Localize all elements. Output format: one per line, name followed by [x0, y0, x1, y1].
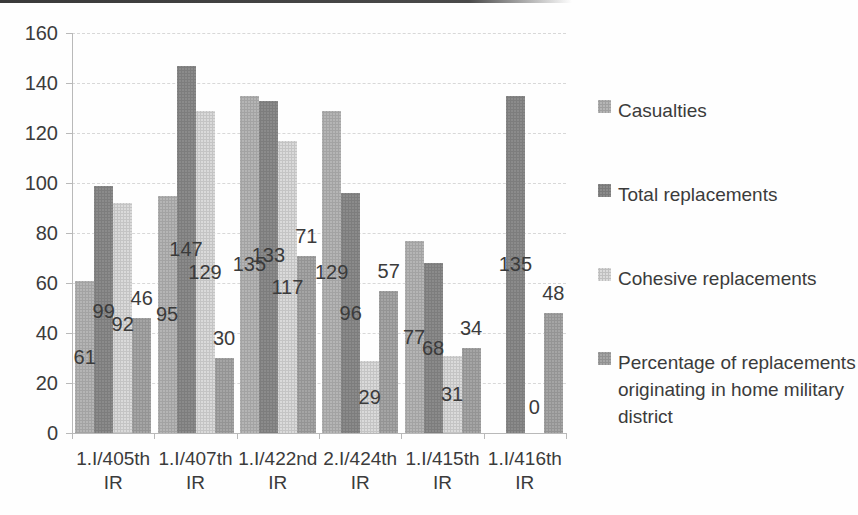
legend-label: Casualties: [618, 97, 707, 124]
data-label: 31: [441, 384, 463, 404]
gridline-160: [72, 33, 566, 34]
legend-label-line: district: [618, 403, 856, 430]
y-axis-line: [72, 33, 73, 433]
category-label-line: IR: [488, 471, 562, 495]
legend-marker-icon: [598, 268, 611, 281]
legend-marker-icon: [598, 352, 611, 365]
gridline-80: [72, 233, 566, 234]
y-axis-tick-label: 160: [14, 23, 58, 43]
y-axis-tick-label: 120: [14, 123, 58, 143]
y-axis-tick-label: 20: [14, 373, 58, 393]
x-axis-tick: [154, 433, 155, 439]
category-label-line: IR: [238, 471, 317, 495]
category-label-line: IR: [323, 471, 397, 495]
category-label: 1.I/405thIR: [76, 447, 150, 495]
category-label: 1.I/415thIR: [406, 447, 480, 495]
y-axis-tick-label: 40: [14, 323, 58, 343]
legend-label: Total replacements: [618, 181, 777, 208]
gridline-120: [72, 133, 566, 134]
legend-label: Cohesive replacements: [618, 265, 817, 292]
data-label: 48: [542, 283, 564, 303]
category-label-line: IR: [406, 471, 480, 495]
category-label-line: IR: [159, 471, 233, 495]
category-label: 2.I/424thIR: [323, 447, 397, 495]
data-label: 30: [213, 328, 235, 348]
bar-percentage-cat1: [132, 318, 151, 433]
category-label-line: IR: [76, 471, 150, 495]
y-axis-tick-label: 0: [14, 423, 58, 443]
data-label: 68: [422, 338, 444, 358]
gridline-100: [72, 183, 566, 184]
scanned-bar-chart-figure: 020406080100120140160 619513512977991471…: [0, 0, 858, 515]
y-axis-tick-label: 80: [14, 223, 58, 243]
data-label: 71: [295, 226, 317, 246]
category-label-line: 1.I/407th: [159, 447, 233, 471]
x-axis-tick: [401, 433, 402, 439]
data-label: 129: [315, 262, 348, 282]
data-label: 133: [252, 245, 285, 265]
data-label: 117: [271, 277, 303, 297]
data-label: 46: [131, 288, 153, 308]
data-label: 135: [499, 254, 532, 274]
scan-artifact-strip: [0, 0, 572, 3]
data-label: 129: [188, 262, 221, 282]
y-axis-tick-label: 100: [14, 173, 58, 193]
x-axis-tick: [319, 433, 320, 439]
x-axis-tick: [72, 433, 73, 439]
gridline-60: [72, 283, 566, 284]
category-label-line: 2.I/424th: [323, 447, 397, 471]
y-axis-tick-label: 60: [14, 273, 58, 293]
data-label: 61: [74, 347, 96, 367]
bar-percentage-cat4: [379, 291, 398, 434]
data-label: 0: [529, 397, 540, 417]
data-label: 92: [112, 314, 134, 334]
legend-label: Percentage of replacementsoriginating in…: [618, 349, 856, 430]
data-label: 29: [359, 387, 381, 407]
category-label: 1.I/416thIR: [488, 447, 562, 495]
legend-label-line: Percentage of replacements: [618, 349, 856, 376]
category-label-line: 1.I/416th: [488, 447, 562, 471]
x-axis-tick: [484, 433, 485, 439]
gridline-140: [72, 83, 566, 84]
x-axis-tick: [566, 433, 567, 439]
bar-percentage-cat2: [215, 358, 234, 433]
category-label: 1.I/422ndIR: [238, 447, 317, 495]
bar-percentage-cat6: [544, 313, 563, 433]
bar-percentage-cat5: [462, 348, 481, 433]
category-label-line: 1.I/405th: [76, 447, 150, 471]
data-label: 95: [156, 304, 178, 324]
legend-marker-icon: [598, 184, 611, 197]
data-label: 96: [340, 303, 362, 323]
legend-label-line: originating in home military: [618, 376, 856, 403]
data-label: 57: [378, 261, 400, 281]
data-label: 34: [460, 318, 482, 338]
data-label: 147: [169, 239, 202, 259]
legend-marker-icon: [598, 100, 611, 113]
category-label: 1.I/407thIR: [159, 447, 233, 495]
x-axis-tick: [237, 433, 238, 439]
category-label-line: 1.I/422nd: [238, 447, 317, 471]
category-label-line: 1.I/415th: [406, 447, 480, 471]
y-axis-tick-label: 140: [14, 73, 58, 93]
